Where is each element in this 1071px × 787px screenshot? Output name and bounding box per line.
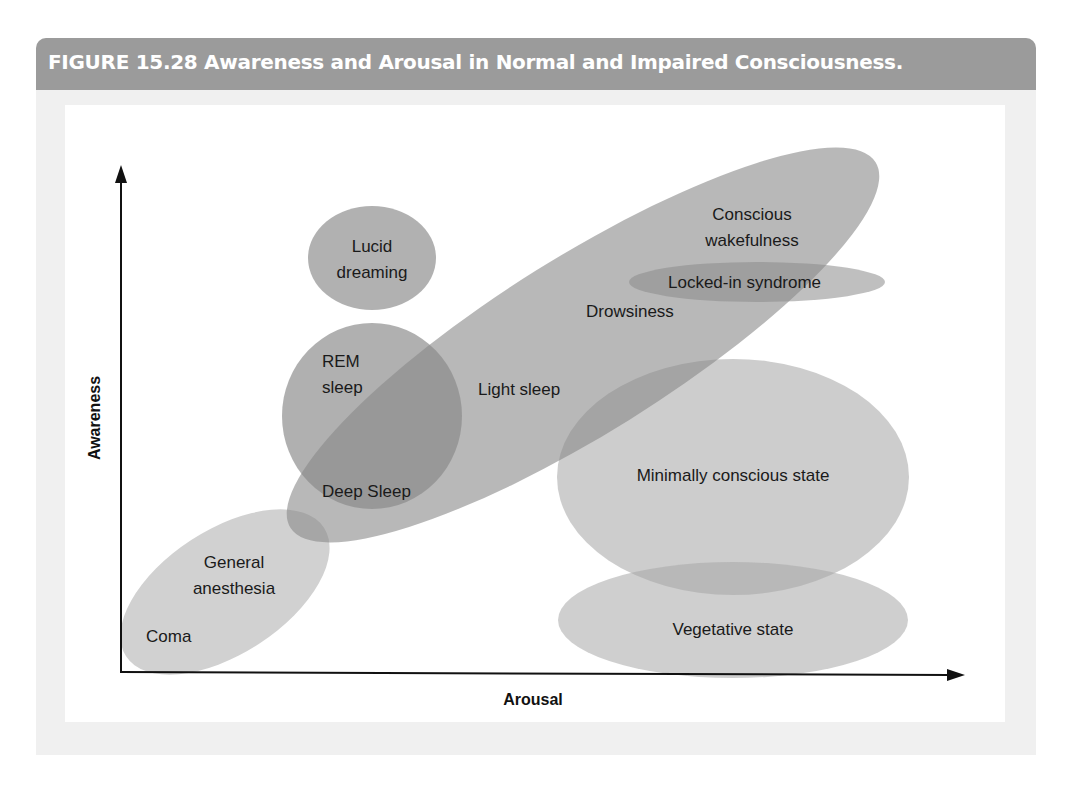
- label-deep-sleep: Deep Sleep: [322, 482, 411, 501]
- label-lucid-line2: dreaming: [337, 263, 408, 282]
- x-axis-label: Arousal: [503, 691, 563, 708]
- y-axis-arrow-icon: [115, 165, 127, 183]
- label-vegetative: Vegetative state: [673, 620, 794, 639]
- awareness-arousal-diagram: Arousal Awareness Lucid dreaming REM sle…: [0, 0, 1071, 787]
- label-locked-in: Locked-in syndrome: [668, 273, 821, 292]
- label-minimally-conscious: Minimally conscious state: [637, 466, 830, 485]
- label-conscious-line2: wakefulness: [704, 231, 799, 250]
- label-rem-line1: REM: [322, 352, 360, 371]
- y-axis-label: Awareness: [86, 376, 103, 460]
- x-axis: [120, 672, 950, 675]
- x-axis-arrow-icon: [947, 669, 965, 681]
- label-conscious-line1: Conscious: [712, 205, 791, 224]
- label-lucid-line1: Lucid: [352, 237, 393, 256]
- label-rem-line2: sleep: [322, 378, 363, 397]
- label-drowsiness: Drowsiness: [586, 302, 674, 321]
- label-light-sleep: Light sleep: [478, 380, 560, 399]
- label-anesthesia-line2: anesthesia: [193, 579, 276, 598]
- label-coma: Coma: [146, 627, 192, 646]
- label-anesthesia-line1: General: [204, 553, 264, 572]
- region-lucid-dreaming: [308, 206, 436, 310]
